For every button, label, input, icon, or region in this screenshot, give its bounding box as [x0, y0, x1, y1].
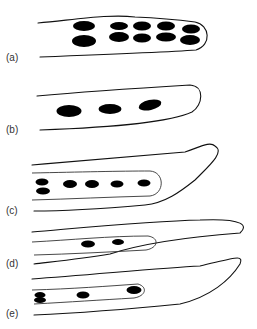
panel-label-b: (b) — [6, 124, 18, 135]
hyphal-cell-diagram — [0, 0, 257, 329]
panel-label-c: (c) — [6, 205, 18, 216]
panel-label-e: (e) — [6, 308, 18, 319]
panel-label-d: (d) — [6, 258, 18, 269]
panel-b-drawing — [37, 85, 201, 130]
panel-a-drawing — [38, 16, 207, 57]
panel-label-a: (a) — [6, 52, 18, 63]
panel-c-drawing — [32, 144, 218, 211]
panel-d-drawing — [32, 220, 243, 264]
panel-e-drawing — [32, 258, 241, 315]
